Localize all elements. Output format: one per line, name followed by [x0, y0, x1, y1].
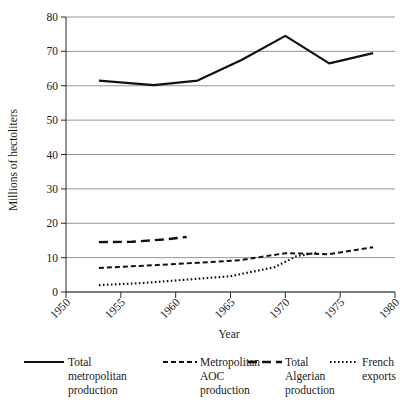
- svg-text:60: 60: [47, 80, 59, 92]
- legend-label-2: Total: [285, 356, 308, 368]
- legend-label-2: Algerian: [285, 370, 325, 383]
- svg-text:1975: 1975: [322, 296, 347, 321]
- legend-label-0: production: [68, 384, 118, 397]
- svg-text:1970: 1970: [267, 296, 292, 321]
- svg-text:30: 30: [47, 183, 59, 195]
- svg-text:1950: 1950: [48, 296, 73, 321]
- x-axis-title: Year: [218, 328, 239, 340]
- svg-text:40: 40: [47, 149, 59, 161]
- x-axis: 1950195519601965197019751980: [48, 292, 402, 321]
- legend-label-3: French: [362, 356, 394, 368]
- gridlines: [66, 17, 395, 292]
- legend-label-3: exports: [362, 370, 396, 383]
- svg-text:20: 20: [47, 217, 59, 229]
- svg-text:0: 0: [52, 286, 58, 298]
- svg-text:1965: 1965: [212, 296, 237, 321]
- legend-label-2: production: [285, 384, 335, 397]
- series-line-0: [99, 36, 373, 85]
- svg-text:80: 80: [47, 11, 59, 23]
- svg-text:1955: 1955: [102, 296, 127, 321]
- chart-legend: TotalmetropolitanproductionMetropolitanA…: [24, 356, 396, 397]
- svg-text:1960: 1960: [157, 296, 182, 321]
- chart-container: 01020304050607080 1950195519601965197019…: [0, 0, 412, 411]
- svg-text:50: 50: [47, 114, 59, 126]
- svg-text:10: 10: [47, 252, 59, 264]
- svg-text:70: 70: [47, 45, 59, 57]
- legend-label-0: Total: [68, 356, 91, 368]
- svg-text:1980: 1980: [377, 296, 402, 321]
- series-line-2: [99, 237, 187, 242]
- y-axis-title: Millions of hectoliters: [7, 108, 19, 211]
- legend-label-1: production: [200, 384, 250, 397]
- legend-label-0: metropolitan: [68, 370, 127, 383]
- y-axis: 01020304050607080: [47, 11, 67, 298]
- legend-label-1: AOC: [200, 370, 225, 382]
- line-chart: 01020304050607080 1950195519601965197019…: [0, 0, 412, 411]
- series-lines: [99, 36, 373, 285]
